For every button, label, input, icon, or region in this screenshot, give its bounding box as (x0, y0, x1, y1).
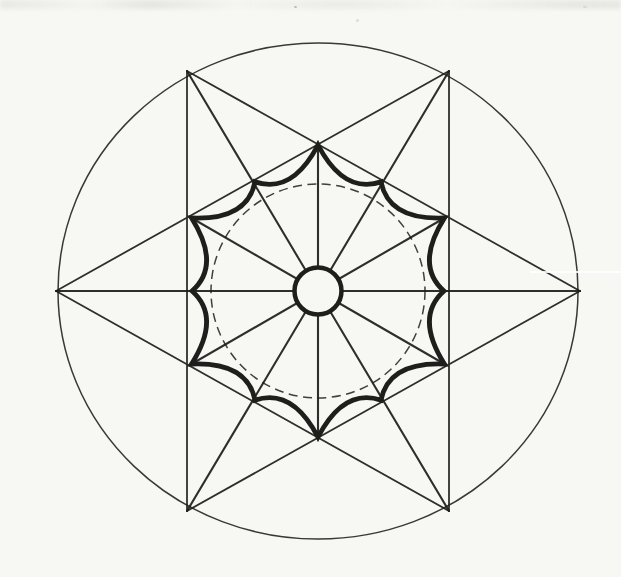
scanned-paper-page (0, 0, 621, 577)
paper-speck (294, 6, 297, 8)
paper-speck (583, 6, 587, 8)
center-circle (295, 268, 342, 315)
rosette-diagram (0, 0, 621, 577)
scan-streak-artifact (530, 271, 621, 273)
paper-speck (356, 19, 359, 22)
